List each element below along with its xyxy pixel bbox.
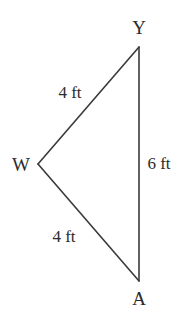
vertex-label-w: W bbox=[12, 155, 30, 174]
triangle-figure: Y W A 4 ft 4 ft 6 ft bbox=[0, 0, 185, 326]
side-length-label-ya: 6 ft bbox=[147, 155, 170, 172]
vertex-label-a: A bbox=[132, 289, 146, 308]
vertex-label-y: Y bbox=[132, 18, 146, 37]
side-length-label-wy: 4 ft bbox=[58, 84, 81, 101]
triangle-side-wy bbox=[38, 47, 139, 164]
side-length-label-wa: 4 ft bbox=[52, 228, 75, 245]
triangle-side-wa bbox=[38, 164, 139, 281]
